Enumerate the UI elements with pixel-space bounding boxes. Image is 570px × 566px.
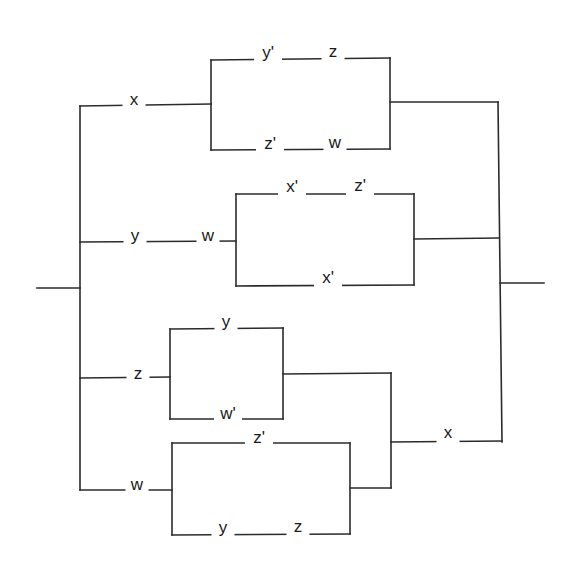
background bbox=[0, 0, 570, 566]
switch-label: z' bbox=[253, 428, 265, 447]
switch-label: y bbox=[219, 518, 228, 537]
switch-label: x' bbox=[322, 268, 334, 287]
switch-label: y' bbox=[262, 43, 274, 62]
switch-label: z bbox=[294, 517, 303, 536]
switch-label: z' bbox=[264, 134, 276, 153]
switch-label: x' bbox=[286, 177, 298, 196]
switch-label: z' bbox=[354, 176, 366, 195]
switch-label: w bbox=[130, 475, 144, 494]
switching-circuit-diagram: xy'zz'wywx'z'x'zyw'wz'yzx bbox=[0, 0, 570, 566]
switch-label: z bbox=[329, 42, 338, 61]
wire-box3-out bbox=[283, 373, 391, 374]
switch-label: w' bbox=[219, 404, 236, 423]
switch-label: w bbox=[201, 226, 215, 245]
wire-box1-bottom bbox=[211, 149, 390, 150]
wire-branch3-lead bbox=[80, 377, 170, 378]
switch-label: y bbox=[222, 312, 231, 331]
switch-label: z bbox=[134, 364, 143, 383]
switch-label: w bbox=[328, 133, 342, 152]
switch-label: y bbox=[131, 226, 140, 245]
wire-box2-out bbox=[414, 238, 499, 239]
switch-label: x bbox=[444, 423, 453, 442]
wire-box4-bottom bbox=[172, 534, 350, 535]
switch-label: x bbox=[130, 90, 139, 109]
